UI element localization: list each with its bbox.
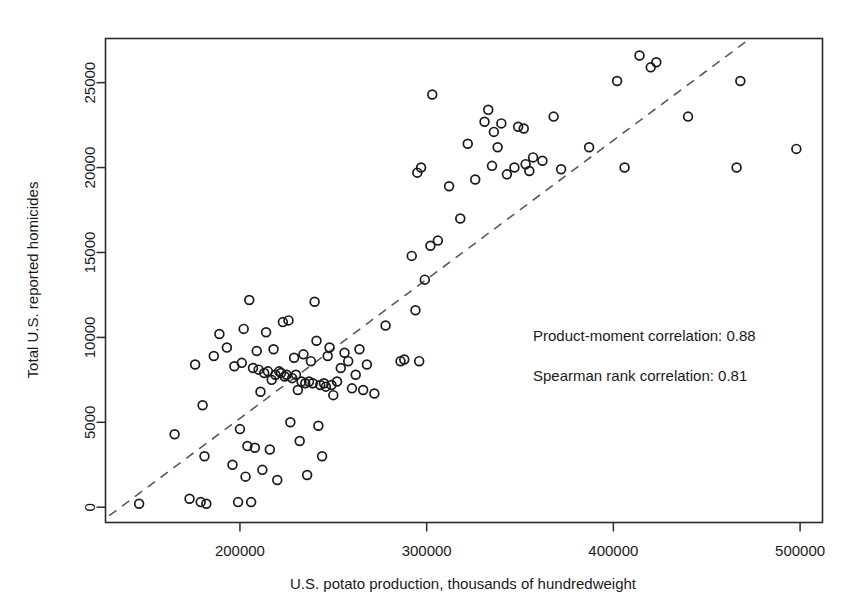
scatter-point <box>318 452 327 461</box>
scatter-point <box>312 336 321 345</box>
scatter-point <box>613 77 622 86</box>
scatter-point <box>510 163 519 172</box>
scatter-point <box>135 499 144 508</box>
scatter-point <box>411 306 420 315</box>
scatter-point <box>538 156 547 165</box>
scatter-point <box>471 175 480 184</box>
scatter-point <box>202 499 211 508</box>
plot-canvas: 0500010000150002000025000 20000030000040… <box>0 0 864 616</box>
y-tick-label: 15000 <box>81 232 98 274</box>
scatter-point <box>736 77 745 86</box>
x-tick-label: 300000 <box>402 542 452 559</box>
scatter-point <box>489 128 498 137</box>
scatter-point <box>241 472 250 481</box>
x-tick-label: 200000 <box>215 542 265 559</box>
scatter-point <box>519 124 528 133</box>
scatter-point <box>549 112 558 121</box>
scatter-point <box>488 161 497 170</box>
scatter-point <box>684 112 693 121</box>
scatter-points-group <box>135 51 801 508</box>
scatter-point <box>620 163 629 172</box>
y-tick-label: 10000 <box>81 317 98 359</box>
scatter-point <box>191 360 200 369</box>
y-tick-label: 25000 <box>81 62 98 104</box>
spearman-rank-correlation-label: Spearman rank correlation: 0.81 <box>533 367 747 384</box>
scatter-point <box>303 471 312 480</box>
scatter-point <box>249 364 258 373</box>
scatter-point <box>407 251 416 260</box>
scatter-point <box>237 358 246 367</box>
y-tick-label: 0 <box>81 503 98 511</box>
scatter-point <box>239 325 248 334</box>
scatter-point <box>484 105 493 114</box>
scatter-point <box>222 343 231 352</box>
scatter-point <box>355 345 364 354</box>
y-axis-title: Total U.S. reported homicides <box>24 182 41 379</box>
scatter-point <box>514 122 523 131</box>
scatter-point <box>370 389 379 398</box>
x-axis-title: U.S. potato production, thousands of hun… <box>290 575 637 592</box>
x-tick-label: 400000 <box>588 542 638 559</box>
x-axis-tick-labels: 200000300000400000500000 <box>215 542 825 559</box>
scatter-point <box>329 391 338 400</box>
scatter-point <box>269 345 278 354</box>
y-tick-label: 20000 <box>81 147 98 189</box>
scatter-point <box>247 498 256 507</box>
scatter-point <box>290 353 299 362</box>
scatter-point <box>415 357 424 366</box>
scatter-point <box>258 465 267 474</box>
scatter-point <box>529 153 538 162</box>
scatter-point <box>286 418 295 427</box>
scatter-point <box>351 370 360 379</box>
scatter-point <box>200 452 209 461</box>
scatter-point <box>359 386 368 395</box>
scatter-point <box>262 328 271 337</box>
scatter-point <box>209 352 218 361</box>
scatter-point <box>245 296 254 305</box>
scatter-point <box>493 143 502 152</box>
scatter-point <box>428 90 437 99</box>
scatter-point <box>445 182 454 191</box>
scatter-point <box>652 58 661 67</box>
scatter-point <box>463 139 472 148</box>
scatter-point <box>363 360 372 369</box>
scatter-point <box>228 460 237 469</box>
y-tick-label: 5000 <box>81 406 98 439</box>
scatter-point <box>314 421 323 430</box>
scatter-point <box>215 330 224 339</box>
scatter-point <box>503 170 512 179</box>
scatter-point <box>234 498 243 507</box>
scatter-point <box>273 476 282 485</box>
scatter-point <box>420 275 429 284</box>
scatter-point <box>196 498 205 507</box>
y-axis-ticks <box>97 83 106 508</box>
scatter-point <box>299 350 308 359</box>
scatter-point <box>381 321 390 330</box>
scatter-point <box>348 384 357 393</box>
scatter-point <box>497 119 506 128</box>
scatter-point <box>792 144 801 153</box>
scatter-point <box>557 165 566 174</box>
scatter-point <box>278 318 287 327</box>
scatter-point <box>306 357 315 366</box>
scatter-point <box>456 214 465 223</box>
product-moment-correlation-label: Product-moment correlation: 0.88 <box>533 327 756 344</box>
scatter-point <box>635 51 644 60</box>
scatter-point <box>252 347 261 356</box>
scatter-point <box>336 364 345 373</box>
scatter-point <box>265 445 274 454</box>
scatter-point <box>525 167 534 176</box>
scatter-point <box>340 348 349 357</box>
x-tick-label: 500000 <box>775 542 825 559</box>
scatter-point <box>480 117 489 126</box>
scatter-point <box>256 387 265 396</box>
y-axis-tick-labels: 0500010000150002000025000 <box>81 62 98 512</box>
scatter-point <box>732 163 741 172</box>
scatter-point <box>293 386 302 395</box>
scatter-point <box>433 236 442 245</box>
scatter-point <box>198 401 207 410</box>
scatter-point <box>236 425 245 434</box>
scatter-plot-figure: 0500010000150002000025000 20000030000040… <box>0 0 864 616</box>
scatter-point <box>646 63 655 72</box>
x-axis-ticks <box>240 523 800 532</box>
